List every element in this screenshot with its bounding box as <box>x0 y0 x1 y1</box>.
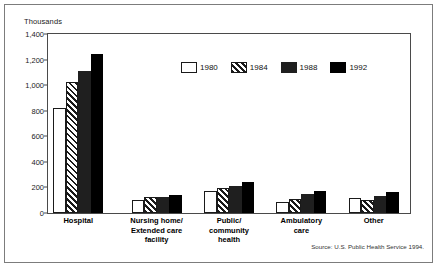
bar-1980 <box>276 202 289 213</box>
legend-label: 1980 <box>200 63 218 72</box>
bar-1980 <box>349 198 362 213</box>
y-axis-tick-label: 800 <box>31 106 44 115</box>
bar-1992 <box>91 54 104 213</box>
bar-1980 <box>53 108 66 213</box>
bar-1988 <box>301 194 314 213</box>
y-axis-tick-label: 1,000 <box>25 81 44 90</box>
bar-1988 <box>78 71 91 213</box>
x-axis-labels: HospitalNursing home/ Extended care faci… <box>48 216 410 258</box>
source-note: Source: U.S. Public Health Service 1994. <box>311 243 424 250</box>
y-axis-tick-label: 1,400 <box>25 30 44 39</box>
legend-item: 1992 <box>330 62 367 73</box>
y-axis-tick-mark <box>44 34 47 35</box>
y-axis-unit-label: Thousands <box>24 17 62 26</box>
y-axis-tick-mark <box>44 110 47 111</box>
bar-group <box>132 34 182 213</box>
legend-swatch-icon <box>330 62 346 73</box>
legend-item: 1988 <box>281 62 318 73</box>
bar-1988 <box>374 196 387 213</box>
y-axis-tick-label: 400 <box>31 157 44 166</box>
legend-swatch-icon <box>231 62 247 73</box>
x-axis-category-label: Other <box>328 216 420 226</box>
legend-swatch-icon <box>281 62 297 73</box>
y-axis-tick-label: 600 <box>31 132 44 141</box>
y-axis-tick-mark <box>44 59 47 60</box>
legend-item: 1980 <box>181 62 218 73</box>
bar-1992 <box>314 191 327 213</box>
bar-1992 <box>386 192 399 213</box>
legend-item: 1984 <box>231 62 268 73</box>
y-axis-tick-mark <box>44 85 47 86</box>
chart-legend: 1980198419881992 <box>181 60 367 75</box>
bar-1984 <box>144 197 157 213</box>
bar-1988 <box>229 186 242 213</box>
bar-1980 <box>132 200 145 213</box>
bar-1980 <box>204 191 217 213</box>
y-axis-tick-label: 200 <box>31 183 44 192</box>
bar-1984 <box>289 199 302 213</box>
bar-group <box>53 34 103 213</box>
y-axis-tick-mark <box>44 187 47 188</box>
y-axis-tick-mark <box>44 136 47 137</box>
y-axis-tick-mark <box>44 213 47 214</box>
bar-1984 <box>66 82 79 213</box>
legend-label: 1984 <box>250 63 268 72</box>
chart-figure: Thousands 02004006008001,0001,2001,400 H… <box>0 0 438 268</box>
bar-1988 <box>157 197 170 213</box>
legend-swatch-icon <box>181 62 197 73</box>
bar-1984 <box>217 188 230 213</box>
bar-1992 <box>169 195 182 213</box>
legend-label: 1992 <box>349 63 367 72</box>
y-axis-tick-mark <box>44 161 47 162</box>
y-axis: 02004006008001,0001,2001,400 <box>8 33 44 214</box>
legend-label: 1988 <box>300 63 318 72</box>
bar-1984 <box>361 200 374 213</box>
y-axis-tick-label: 1,200 <box>25 55 44 64</box>
bar-1992 <box>242 182 255 213</box>
